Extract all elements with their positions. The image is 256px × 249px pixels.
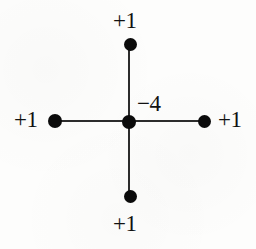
node-top-weight-label: +1 [113, 9, 136, 32]
node-right-weight-label: +1 [218, 108, 241, 131]
node-right [198, 115, 211, 128]
node-left [48, 114, 62, 128]
node-bottom-weight-label: +1 [113, 212, 136, 235]
node-left-weight-label: +1 [14, 108, 37, 131]
node-center-weight-label: −4 [137, 92, 160, 115]
node-center [122, 115, 136, 129]
node-top [124, 38, 137, 51]
stencil-diagram: −4 +1 +1 +1 +1 [0, 0, 256, 249]
node-bottom [124, 190, 137, 203]
